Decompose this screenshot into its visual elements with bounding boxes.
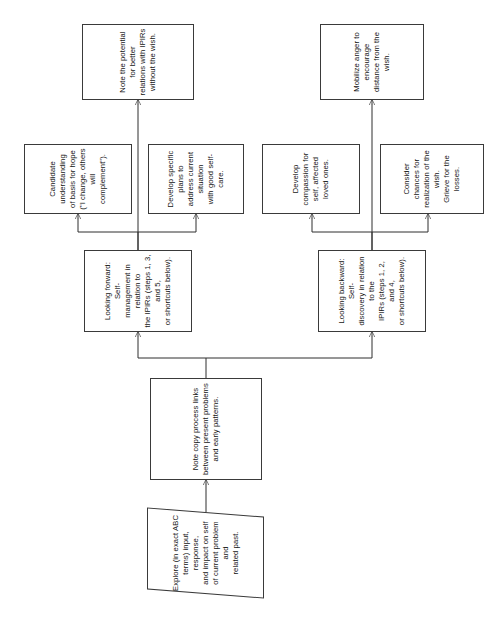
edge-branch-to-looking-forward bbox=[138, 332, 206, 358]
node-mobilize-anger[interactable]: Mobilize anger to encourage distance fro… bbox=[320, 24, 424, 100]
edge-backward-to-compassion bbox=[312, 214, 372, 232]
node-looking-backward[interactable]: Looking backward: Self- discovery in rel… bbox=[318, 250, 426, 332]
node-looking-forward-label: Looking forward: Self- management in rel… bbox=[103, 251, 173, 331]
node-note-copy-process-label: Note copy process links between present … bbox=[191, 379, 221, 479]
node-note-copy-process[interactable]: Note copy process links between present … bbox=[150, 378, 262, 480]
node-explore-label: Explore (in exact ABC terms) input, resp… bbox=[170, 512, 240, 594]
node-looking-backward-label: Looking backward: Self- discovery in rel… bbox=[337, 251, 407, 331]
node-note-potential-label: Note the potential for better relations … bbox=[118, 25, 158, 99]
node-looking-forward[interactable]: Looking forward: Self- management in rel… bbox=[84, 250, 192, 332]
node-develop-compassion-label: Develop compassion for self, affected lo… bbox=[291, 145, 331, 213]
edge-forward-to-plans bbox=[138, 214, 196, 232]
edge-branch-to-looking-backward bbox=[206, 332, 372, 358]
node-note-potential[interactable]: Note the potential for better relations … bbox=[82, 24, 194, 100]
edge-backward-to-chances bbox=[372, 214, 428, 232]
node-develop-specific-plans-label: Develop specific plans to address curren… bbox=[166, 145, 226, 213]
node-candidate-understanding-label: Candidate understanding of basis for hop… bbox=[48, 145, 108, 213]
edge-forward-to-candidate bbox=[78, 214, 138, 232]
node-candidate-understanding[interactable]: Candidate understanding of basis for hop… bbox=[24, 144, 132, 214]
node-mobilize-anger-label: Mobilize anger to encourage distance fro… bbox=[352, 25, 392, 99]
node-consider-chances[interactable]: Consider chances for realization of the … bbox=[380, 144, 484, 214]
node-develop-compassion[interactable]: Develop compassion for self, affected lo… bbox=[262, 144, 360, 214]
node-develop-specific-plans[interactable]: Develop specific plans to address curren… bbox=[148, 144, 244, 214]
node-consider-chances-label: Consider chances for realization of the … bbox=[402, 145, 462, 213]
node-explore[interactable]: Explore (in exact ABC terms) input, resp… bbox=[147, 512, 264, 594]
